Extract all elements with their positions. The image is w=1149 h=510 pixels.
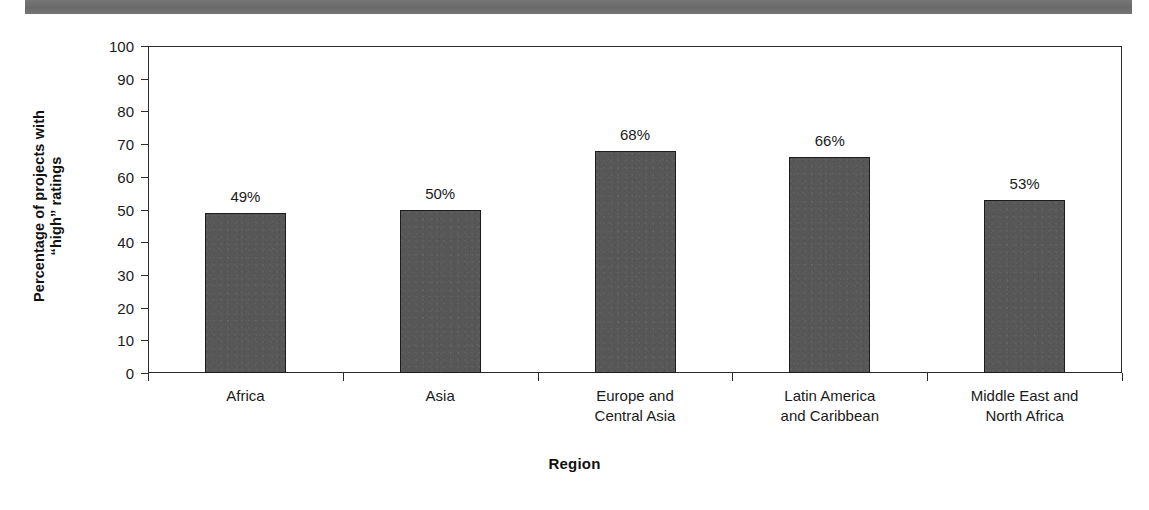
- y-axis-title-line1: Percentage of projects with: [31, 56, 48, 356]
- y-axis-tick: [141, 308, 149, 309]
- bar-value-label: 66%: [780, 133, 880, 148]
- y-axis-tick: [141, 275, 149, 276]
- y-axis-tick: [141, 79, 149, 80]
- x-axis-category-label-line: Asia: [343, 386, 538, 406]
- y-axis-tick-label: 100: [78, 39, 134, 54]
- x-axis-category-label: Middle East andNorth Africa: [927, 386, 1122, 426]
- bar: [205, 213, 286, 373]
- y-axis-tick: [141, 177, 149, 178]
- x-axis-tick: [343, 373, 344, 381]
- x-axis-category-label: Latin Americaand Caribbean: [732, 386, 927, 426]
- x-axis-category-label-line: North Africa: [927, 406, 1122, 426]
- x-axis-tick: [927, 373, 928, 381]
- y-axis-tick-label: 50: [78, 202, 134, 217]
- x-axis-tick: [148, 373, 149, 381]
- y-axis-tick-label: 70: [78, 137, 134, 152]
- bar-value-label: 50%: [390, 186, 490, 201]
- x-axis-tick: [1122, 373, 1123, 381]
- bar-value-label: 49%: [195, 189, 295, 204]
- y-axis-tick-label: 60: [78, 169, 134, 184]
- y-axis-tick-label: 0: [78, 366, 134, 381]
- y-axis-title-line2: “high” ratings: [48, 56, 65, 356]
- x-axis-category-label-line: Middle East and: [927, 386, 1122, 406]
- top-decorative-band: [25, 0, 1132, 14]
- bar: [400, 210, 481, 374]
- y-axis-tick: [141, 242, 149, 243]
- y-axis-tick-label: 90: [78, 71, 134, 86]
- bar-value-label: 68%: [585, 127, 685, 142]
- bar: [595, 151, 676, 373]
- chart-page: Percentage of projects with “high” ratin…: [0, 0, 1149, 510]
- bar-value-label: 53%: [975, 176, 1075, 191]
- y-axis-tick: [141, 111, 149, 112]
- bar: [789, 157, 870, 373]
- y-axis-title: Percentage of projects with “high” ratin…: [31, 56, 71, 356]
- y-axis-tick: [141, 210, 149, 211]
- x-axis-category-label: Asia: [343, 386, 538, 406]
- x-axis-category-label-line: Latin America: [732, 386, 927, 406]
- x-axis-category-label: Africa: [148, 386, 343, 406]
- y-axis-tick-label: 30: [78, 267, 134, 282]
- y-axis-tick: [141, 340, 149, 341]
- y-axis-tick: [141, 46, 149, 47]
- x-axis-title: Region: [0, 455, 1149, 472]
- y-axis-tick-label: 80: [78, 104, 134, 119]
- x-axis-category-label-line: Africa: [148, 386, 343, 406]
- y-axis-tick-label: 40: [78, 235, 134, 250]
- x-axis-category-label-line: and Caribbean: [732, 406, 927, 426]
- y-axis-tick-label: 20: [78, 300, 134, 315]
- y-axis-tick: [141, 144, 149, 145]
- bar: [984, 200, 1065, 373]
- x-axis-tick: [538, 373, 539, 381]
- y-axis-tick-label: 10: [78, 333, 134, 348]
- x-axis-category-label: Europe andCentral Asia: [538, 386, 733, 426]
- x-axis-tick: [732, 373, 733, 381]
- x-axis-category-label-line: Europe and: [538, 386, 733, 406]
- x-axis-category-label-line: Central Asia: [538, 406, 733, 426]
